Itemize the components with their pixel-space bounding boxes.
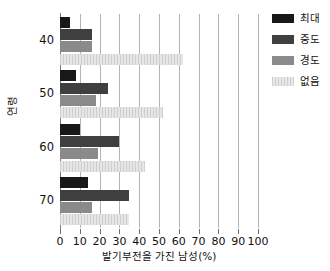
legend-item-경도[interactable]: 경도	[272, 54, 330, 66]
bar-40-중도	[60, 29, 92, 40]
legend-item-없음[interactable]: 없음	[272, 75, 330, 87]
legend-label: 최대	[300, 12, 320, 24]
bar-50-없음	[60, 107, 163, 118]
bar-40-최대	[60, 17, 70, 28]
bar-60-경도	[60, 148, 98, 159]
legend-item-최대[interactable]: 최대	[272, 12, 330, 24]
bar-chart: 0102030405060708090100 40506070 발기부전을 가진…	[0, 0, 330, 271]
legend-item-중도[interactable]: 중도	[272, 33, 330, 45]
bar-60-최대	[60, 124, 80, 135]
bar-70-중도	[60, 190, 129, 201]
x-axis-title: 발기부전을 가진 남성(%)	[60, 250, 258, 263]
bar-60-없음	[60, 161, 145, 172]
chart-legend: 최대중도경도없음	[272, 12, 330, 96]
bar-50-경도	[60, 95, 96, 106]
bar-50-중도	[60, 83, 108, 94]
y-tick-label-60: 60	[28, 141, 54, 154]
legend-swatch-icon-중도	[272, 35, 294, 44]
legend-swatch-icon-없음	[272, 77, 294, 86]
x-tick-60	[179, 229, 180, 234]
x-tick-20	[100, 229, 101, 234]
y-tick-label-40: 40	[28, 34, 54, 47]
bar-40-없음	[60, 54, 183, 65]
x-tick-90	[238, 229, 239, 234]
bar-40-경도	[60, 41, 92, 52]
y-tick-label-70: 70	[28, 194, 54, 207]
x-tick-70	[199, 229, 200, 234]
x-tick-80	[218, 229, 219, 234]
x-tick-0	[60, 229, 61, 234]
legend-swatch-icon-경도	[272, 56, 294, 65]
x-tick-50	[159, 229, 160, 234]
x-tick-10	[80, 229, 81, 234]
legend-label: 중도	[300, 33, 320, 45]
x-tick-label-100: 100	[243, 235, 273, 248]
bar-50-최대	[60, 70, 76, 81]
legend-label: 없음	[300, 75, 320, 87]
y-axis-title: 연령	[6, 96, 18, 116]
legend-swatch-icon-최대	[272, 14, 294, 23]
gridline-100	[258, 14, 259, 228]
bar-70-경도	[60, 202, 92, 213]
bar-70-최대	[60, 177, 88, 188]
plot-area	[60, 14, 258, 228]
legend-label: 경도	[300, 54, 320, 66]
y-tick-label-50: 50	[28, 87, 54, 100]
bar-60-중도	[60, 136, 119, 147]
x-tick-40	[139, 229, 140, 234]
bar-70-없음	[60, 214, 129, 225]
x-tick-100	[258, 229, 259, 234]
x-tick-30	[119, 229, 120, 234]
